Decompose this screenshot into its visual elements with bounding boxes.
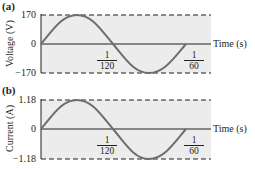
voltage-panel: (a) Voltage (V) 170 0 −170 Time (s) 1 12…: [0, 0, 255, 84]
y-tick-max: 1.18: [0, 94, 36, 105]
x-tick-1-120: 1 120: [97, 135, 117, 156]
x-tick-1-120: 1 120: [97, 50, 117, 71]
x-tick-1-60: 1 60: [184, 50, 204, 71]
y-tick-min: −1.18: [0, 153, 36, 164]
y-tick-zero: 0: [0, 123, 36, 134]
y-tick-min: −170: [0, 67, 36, 78]
x-axis-label: Time (s): [213, 123, 247, 134]
x-axis-label: Time (s): [213, 38, 247, 49]
y-tick-max: 170: [0, 9, 36, 20]
x-tick-1-60: 1 60: [184, 135, 204, 156]
current-panel: (b) Current (A) 1.18 0 −1.18 Time (s) 1 …: [0, 84, 255, 169]
y-tick-zero: 0: [0, 38, 36, 49]
